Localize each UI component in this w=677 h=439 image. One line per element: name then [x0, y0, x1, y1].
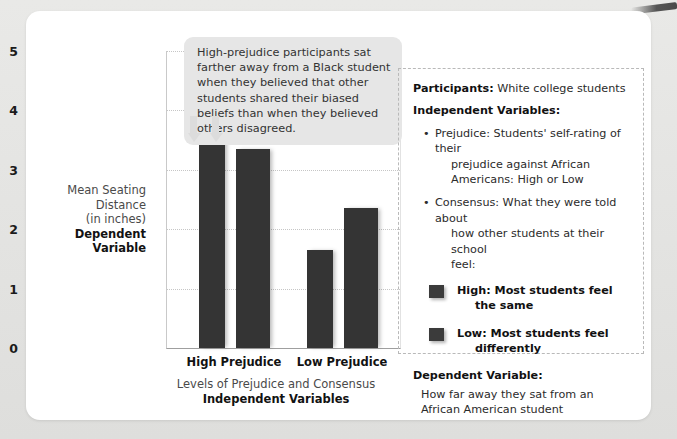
- x-category-low-prejudice: Low Prejudice: [292, 355, 392, 369]
- bullet-dot-icon: •: [423, 195, 430, 210]
- callout-arrow-right-icon: [210, 116, 223, 142]
- figure-card: Mean Seating Distance (in inches) Depend…: [26, 11, 651, 420]
- participants-label: Participants:: [413, 82, 494, 95]
- x-axis-label: Levels of Prejudice and Consensus Indepe…: [146, 377, 406, 407]
- dependent-variable-body: How far away they sat from an African Am…: [413, 387, 631, 417]
- legend-item-low-line2: differently: [457, 342, 631, 357]
- y-tick-1: 1: [0, 281, 18, 296]
- x-category-high-prejudice: High Prejudice: [184, 355, 284, 369]
- study-info-panel: Participants: White college students Ind…: [398, 68, 644, 354]
- iv-bullet-prejudice: • Prejudice: Students' self-rating of th…: [413, 126, 631, 188]
- dependent-variable-heading: Dependent Variable:: [413, 368, 631, 383]
- y-axis-label-line1: Mean Seating: [67, 183, 146, 197]
- y-tick-2: 2: [0, 222, 18, 237]
- legend-item-low-line1: Low: Most students feel: [457, 327, 609, 340]
- bar-low-prejudice-series-2: [344, 208, 378, 348]
- bullet-dot-icon: •: [423, 126, 430, 141]
- iv-heading-text: Independent Variables:: [413, 104, 560, 117]
- legend-item-high: High: Most students feel the same: [413, 284, 631, 313]
- bar-high-prejudice-series-2: [236, 149, 270, 348]
- y-tick-3: 3: [0, 162, 18, 177]
- participants-row: Participants: White college students: [413, 81, 631, 96]
- legend-item-high-line1: High: Most students feel: [457, 284, 613, 297]
- y-axis-label-line3: (in inches): [86, 212, 146, 226]
- bar-low-prejudice-series-1: [307, 250, 333, 348]
- iv-bullet-consensus-line2: how other students at their school: [435, 226, 631, 257]
- iv-bullet-consensus-line1: Consensus: What they were told about: [435, 196, 616, 224]
- iv-bullet-prejudice-line3: Americans: High or Low: [435, 172, 631, 187]
- y-tick-5: 5: [0, 44, 18, 59]
- legend-swatch-low-icon: [429, 328, 444, 341]
- dv-line2: American student: [464, 403, 564, 416]
- legend-item-low: Low: Most students feel differently: [413, 327, 631, 356]
- x-axis-label-text: Levels of Prejudice and Consensus: [177, 377, 375, 391]
- y-axis-label: Mean Seating Distance (in inches) Depend…: [36, 183, 146, 256]
- iv-bullet-prejudice-line1: Prejudice: Students' self-rating of thei…: [435, 127, 621, 155]
- callout-arrow-left-icon: [188, 116, 201, 142]
- callout-text: High-prejudice participants sat farther …: [197, 46, 390, 135]
- participants-value: White college students: [497, 82, 625, 95]
- legend-item-high-line2: the same: [457, 299, 631, 314]
- legend-swatch-high-icon: [429, 285, 444, 298]
- y-axis-label-strong: Dependent Variable: [36, 227, 146, 256]
- iv-bullet-consensus: • Consensus: What they were told about h…: [413, 195, 631, 272]
- y-tick-0: 0: [0, 341, 18, 356]
- iv-bullet-prejudice-line2: prejudice against African: [435, 157, 631, 172]
- y-tick-4: 4: [0, 103, 18, 118]
- x-axis-label-strong: Independent Variables: [146, 392, 406, 407]
- iv-bullet-consensus-line3: feel:: [435, 257, 631, 272]
- y-axis-label-line2: Distance: [96, 198, 146, 212]
- independent-variables-heading: Independent Variables:: [413, 103, 631, 118]
- bar-chart-figure: Mean Seating Distance (in inches) Depend…: [26, 11, 401, 420]
